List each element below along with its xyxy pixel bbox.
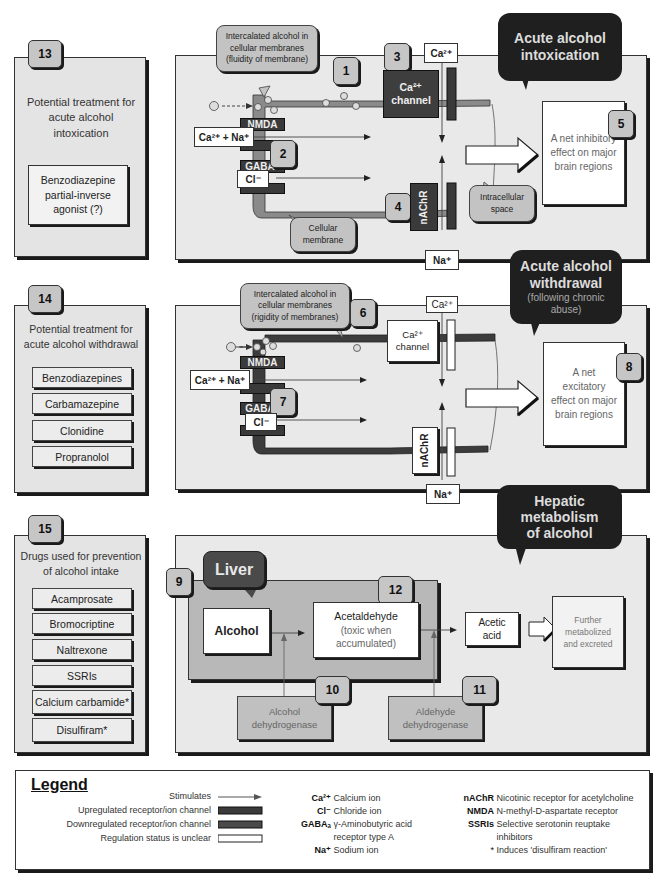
legend-nmda-key: NMDA xyxy=(456,806,494,816)
ca-channel-label: channel xyxy=(391,94,431,107)
legend-ion-ca-key: Ca²⁺ xyxy=(286,793,331,803)
legend-gaba-cont: receptor type A xyxy=(286,832,394,842)
legend-nachr-value: Nicotinic receptor for acetylcholine xyxy=(497,793,634,803)
badge-3: 3 xyxy=(384,43,410,71)
badge-7: 7 xyxy=(270,388,296,416)
legend-ion-cl: Cl⁻ Chloride ion xyxy=(286,806,382,816)
ca-channel-ion-w: Ca²⁺ xyxy=(402,329,422,341)
legend-gaba-cont-value: receptor type A xyxy=(334,832,395,842)
intox-title-1: Acute alcohol xyxy=(514,30,606,47)
badge-9: 9 xyxy=(166,568,192,596)
intox-title-2: intoxication xyxy=(521,47,600,64)
badge-11: 11 xyxy=(462,676,497,704)
legend-ssris-key: SSRIs xyxy=(456,819,494,829)
acute-intoxication-title: Acute alcohol intoxication xyxy=(498,13,622,81)
alcohol-label: Alcohol xyxy=(215,624,259,638)
ion-ca-top-withdrawal: Ca²⁺ xyxy=(426,296,458,313)
legend-unclear-bar xyxy=(218,835,262,842)
legend-ion-na-key: Na⁺ xyxy=(286,845,331,855)
nachr-receptor-upregulated: nAChR xyxy=(410,183,438,231)
legend-upregulated: Upregulated receptor/ion channel xyxy=(36,805,211,815)
badge-5: 5 xyxy=(608,110,634,138)
net-inhibitory-effect-label: A net inhibitory effect on major brain r… xyxy=(543,132,624,174)
badge-2: 2 xyxy=(270,140,296,168)
withdrawal-title-1: Acute alcohol xyxy=(520,258,612,275)
legend: Legend Stimulates Upregulated receptor/i… xyxy=(15,770,650,870)
ion-ca-na-withdrawal: Ca²⁺ + Na⁺ xyxy=(190,370,250,390)
legend-upregulated-bar xyxy=(218,807,262,814)
acetic-acid-label: Acetic acid xyxy=(466,616,518,642)
ion-cl-withdrawal: Cl⁻ xyxy=(245,413,277,431)
net-excitatory-effect-box: A net excitatory effect on major brain r… xyxy=(543,342,625,446)
acute-withdrawal-title: Acute alcohol withdrawal (following chro… xyxy=(510,250,622,324)
ca-channel-upregulated: Ca²⁺ channel xyxy=(383,70,439,118)
acetaldehyde-note: (toxic when accumulated) xyxy=(321,624,411,651)
cellular-membrane-bubble: Cellular membrane xyxy=(290,217,356,252)
badge-10: 10 xyxy=(315,676,350,704)
legend-symbols xyxy=(218,791,268,851)
legend-downregulated-bar xyxy=(218,821,262,828)
alcohol-box: Alcohol xyxy=(203,608,270,654)
further-metabolized-label: Further metabolized and excreted xyxy=(553,614,623,651)
badge-8: 8 xyxy=(616,353,642,381)
withdrawal-title-2: withdrawal xyxy=(530,275,602,292)
legend-nmda: NMDA N-methyl-D-aspartate receptor xyxy=(456,806,618,816)
legend-nachr-key: nAChR xyxy=(456,793,494,803)
acetaldehyde-label: Acetaldehyde xyxy=(334,609,398,623)
legend-gaba-key: GABAₐ xyxy=(286,819,331,829)
legend-ssris: SSRIs Selective serotonin reuptake xyxy=(456,819,610,829)
nachr-label: nAChR xyxy=(419,190,430,224)
legend-ion-ca: Ca²⁺ Calcium ion xyxy=(286,793,381,803)
intracellular-space-bubble: Intracellular space xyxy=(469,185,535,222)
ion-na-bottom-intox: Na⁺ xyxy=(425,250,459,270)
hepatic-title-2: metabolism xyxy=(521,509,599,525)
intercalated-alcohol-fluidity-bubble: Intercalated alcohol in cellular membran… xyxy=(216,25,318,72)
ion-cl-intox: Cl⁻ xyxy=(237,170,269,188)
legend-ssris-value: Selective serotonin reuptake xyxy=(497,819,611,829)
aldehyde-dehydrogenase-label: Aldehyde dehydrogenase xyxy=(389,705,482,732)
legend-asterisk: * Induces 'disulfiram reaction' xyxy=(456,845,607,855)
hepatic-title-1: Hepatic xyxy=(534,493,585,509)
legend-nmda-value: N-methyl-D-aspartate receptor xyxy=(497,806,619,816)
intercalated-alcohol-rigidity-bubble: Intercalated alcohol in cellular membran… xyxy=(240,283,350,329)
legend-ssris-cont-value: inhibitors xyxy=(497,832,533,842)
liver-bubble: Liver xyxy=(203,551,265,588)
legend-gaba-value: γ-Aminobutyric acid xyxy=(334,819,413,829)
legend-arrow-head xyxy=(254,794,262,800)
alcohol-dehydrogenase-label: Alcohol dehydrogenase xyxy=(238,705,331,732)
legend-stimulates: Stimulates xyxy=(56,791,211,801)
badge-4: 4 xyxy=(385,193,411,221)
legend-gaba: GABAₐ γ-Aminobutyric acid xyxy=(286,819,412,829)
ca-channel-unclear: Ca²⁺ channel xyxy=(387,320,438,362)
legend-ion-na-value: Sodium ion xyxy=(334,845,379,855)
legend-asterisk-key: * xyxy=(456,845,494,855)
hepatic-metabolism-title: Hepatic metabolism of alcohol xyxy=(497,485,622,549)
badge-6: 6 xyxy=(350,299,376,327)
ion-ca-top-intox: Ca²⁺ xyxy=(424,43,458,63)
badge-1: 1 xyxy=(333,57,359,85)
further-metabolized-box: Further metabolized and excreted xyxy=(552,596,624,668)
acetaldehyde-box: Acetaldehyde (toxic when accumulated) xyxy=(313,602,419,658)
acetic-acid-box: Acetic acid xyxy=(465,612,519,646)
hepatic-title-3: of alcohol xyxy=(526,525,592,541)
legend-ion-na: Na⁺ Sodium ion xyxy=(286,845,379,855)
ion-na-bottom-withdrawal: Na⁺ xyxy=(426,484,460,504)
legend-ion-cl-key: Cl⁻ xyxy=(286,806,331,816)
legend-ion-cl-value: Chloride ion xyxy=(334,806,382,816)
legend-nachr: nAChR Nicotinic receptor for acetylcholi… xyxy=(456,793,634,803)
withdrawal-title-sub: (following chronic abuse) xyxy=(521,292,611,316)
nachr-label-w: nAChR xyxy=(420,434,431,468)
ion-ca-na-intox: Ca²⁺ + Na⁺ xyxy=(194,127,254,147)
legend-unclear: Regulation status is unclear xyxy=(36,833,211,843)
nmda-receptor-upregulated: NMDA xyxy=(240,356,285,369)
legend-ssris-cont: inhibitors xyxy=(456,832,533,842)
ca-channel-label-w: channel xyxy=(396,341,429,353)
legend-ion-ca-value: Calcium ion xyxy=(334,793,381,803)
legend-downregulated: Downregulated receptor/ion channel xyxy=(26,819,211,829)
nachr-receptor-unclear: nAChR xyxy=(412,427,438,474)
badge-12: 12 xyxy=(378,576,413,604)
net-excitatory-effect-label: A net excitatory effect on major brain r… xyxy=(544,366,624,422)
legend-asterisk-value: Induces 'disulfiram reaction' xyxy=(497,845,608,855)
ca-channel-ion: Ca²⁺ xyxy=(400,81,423,94)
